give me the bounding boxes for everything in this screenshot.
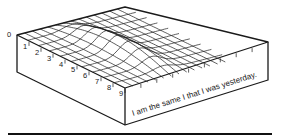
axis-label: 8	[107, 83, 111, 92]
box-caption: I am the same I that I was yesterday.	[131, 70, 258, 118]
surface-grid	[25, 9, 226, 86]
axis-label: 0	[7, 30, 11, 39]
horizontal-rule	[8, 133, 272, 135]
axis-label: 6	[83, 71, 87, 80]
axis-label: 1	[23, 42, 27, 51]
identity-surface-diagram: 0123456789 I am the same I that I was ye…	[0, 0, 283, 137]
axis-label: 9	[119, 89, 123, 98]
axis-label: 2	[35, 48, 39, 57]
axis-label: 4	[59, 60, 63, 69]
axis-label: 3	[47, 54, 51, 63]
axis-label: 5	[71, 65, 75, 74]
axis-label: 7	[95, 77, 99, 86]
